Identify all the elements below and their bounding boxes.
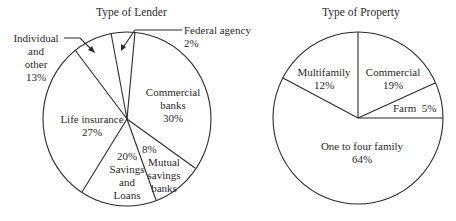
farm-name: Farm	[393, 102, 416, 114]
individual-pct: 13%	[8, 71, 64, 84]
federal-name: Federal agency	[184, 24, 251, 37]
label-federal-agency: Federal agency 2%	[184, 24, 251, 50]
onefour-pct: 64%	[312, 153, 412, 166]
federal-pct: 2%	[184, 37, 251, 50]
life-pct: 27%	[52, 126, 132, 139]
label-individual-other: Individual and other 13%	[8, 32, 64, 84]
mutual-pct: 8%	[140, 143, 188, 156]
lender-chart-title: Type of Lender	[96, 6, 167, 18]
label-life-insurance: Life insurance 27%	[52, 113, 132, 139]
lender-divider-life-individual	[75, 50, 127, 119]
mutual-line2: savings	[140, 169, 188, 182]
commercial-line2: banks	[140, 99, 206, 112]
label-mutual-savings: 8% Mutual savings banks	[140, 143, 188, 195]
property-commercial-pct: 19%	[363, 79, 423, 92]
label-farm: Farm 5%	[393, 102, 436, 115]
label-multifamily: Multifamily 12%	[296, 66, 352, 92]
farm-pct: 5%	[422, 102, 437, 114]
onefour-name: One to four family	[312, 140, 412, 153]
mutual-line3: banks	[140, 182, 188, 195]
individual-line2: and	[8, 45, 64, 58]
multifamily-name: Multifamily	[296, 66, 352, 79]
individual-line1: Individual	[8, 32, 64, 45]
property-commercial-name: Commercial	[363, 66, 423, 79]
property-chart-title: Type of Property	[322, 6, 400, 18]
individual-line3: other	[8, 58, 64, 71]
commercial-line1: Commercial	[140, 86, 206, 99]
label-commercial-banks: Commercial banks 30%	[140, 86, 206, 125]
life-name: Life insurance	[52, 113, 132, 126]
lender-divider-federal-commercial	[127, 32, 135, 119]
label-property-commercial: Commercial 19%	[363, 66, 423, 92]
label-one-to-four-family: One to four family 64%	[312, 140, 412, 166]
commercial-pct: 30%	[140, 112, 206, 125]
multifamily-pct: 12%	[296, 79, 352, 92]
mutual-line1: Mutual	[140, 156, 188, 169]
individual-leader-line	[64, 38, 93, 51]
